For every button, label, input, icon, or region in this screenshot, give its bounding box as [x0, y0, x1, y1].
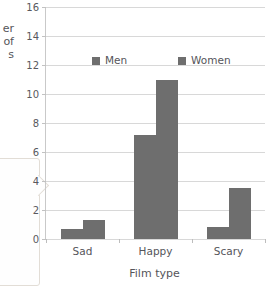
y-tick-label: 4 [33, 177, 39, 187]
legend-swatch-icon [92, 57, 100, 65]
y-tick-label: 16 [26, 3, 39, 13]
y-tick-label: 10 [26, 90, 39, 100]
x-tick-mark [119, 239, 120, 243]
x-tick-label-scary: Scary [214, 246, 243, 257]
y-tick-label: 2 [33, 206, 39, 216]
y-tick-label: 12 [26, 61, 39, 71]
chart-plot-area: 0246810121416SadHappyScary [45, 8, 264, 240]
legend-label: Men [105, 55, 127, 66]
y-tick-label: 14 [26, 32, 39, 42]
x-axis-title: Film type [45, 267, 264, 280]
chart-legend: MenWomen [48, 55, 238, 69]
y-tick-mark [42, 94, 46, 95]
bar-sad-men [61, 229, 83, 239]
y-tick-label: 8 [33, 119, 39, 129]
x-tick-mark [192, 239, 193, 243]
bar-happy-men [134, 135, 156, 239]
y-tick-label: 6 [33, 148, 39, 158]
x-tick-label-sad: Sad [73, 246, 93, 257]
y-tick-mark [42, 123, 46, 124]
y-tick-label: 0 [33, 235, 39, 245]
legend-entry-men[interactable]: Men [92, 55, 127, 66]
x-tick-mark [265, 239, 266, 243]
legend-label: Women [191, 55, 231, 66]
y-gridline [46, 7, 265, 8]
y-tick-mark [42, 152, 46, 153]
x-tick-mark [46, 239, 47, 243]
x-tick-label-happy: Happy [139, 246, 173, 257]
y-axis-title: er of s [0, 22, 14, 61]
legend-entry-women[interactable]: Women [178, 55, 231, 66]
y-tick-mark [42, 36, 46, 37]
y-tick-mark [42, 210, 46, 211]
bar-scary-men [207, 227, 229, 239]
legend-swatch-icon [178, 57, 186, 65]
y-tick-mark [42, 7, 46, 8]
y-gridline [46, 239, 265, 240]
y-gridline [46, 36, 265, 37]
y-tick-mark [42, 181, 46, 182]
bar-happy-women [156, 80, 178, 240]
bar-sad-women [83, 220, 105, 239]
bar-scary-women [229, 188, 251, 239]
y-tick-mark [42, 65, 46, 66]
